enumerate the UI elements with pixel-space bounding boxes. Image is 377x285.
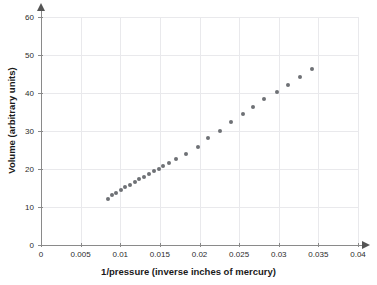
- y-tick-label: 50: [25, 51, 34, 60]
- gridline-horizontal: [41, 169, 358, 170]
- y-tick-mark: [38, 17, 43, 18]
- y-axis-arrow-icon: [37, 3, 45, 11]
- data-point: [167, 161, 171, 165]
- y-tick-label: 10: [25, 203, 34, 212]
- y-tick-label: 30: [25, 127, 34, 136]
- plot-area: [41, 17, 358, 245]
- gridline-horizontal: [41, 17, 358, 18]
- x-tick-label: 0.025: [229, 250, 249, 259]
- data-point: [119, 188, 123, 192]
- data-point: [218, 129, 222, 133]
- x-tick-label: 0.04: [350, 250, 366, 259]
- y-tick-mark: [38, 93, 43, 94]
- x-tick-mark: [239, 243, 240, 247]
- y-tick-label: 0: [30, 241, 34, 250]
- data-point: [298, 75, 302, 79]
- y-tick-mark: [38, 55, 43, 56]
- data-point: [196, 145, 200, 149]
- data-point: [133, 180, 137, 184]
- gridline-vertical: [358, 17, 359, 245]
- x-tick-mark: [358, 243, 359, 247]
- y-tick-mark: [38, 207, 43, 208]
- data-point: [147, 172, 151, 176]
- y-axis-line: [41, 10, 42, 246]
- x-tick-label: 0.035: [308, 250, 328, 259]
- data-point: [286, 83, 290, 87]
- x-axis-label: 1/pressure (inverse inches of mercury): [0, 266, 377, 277]
- x-tick-mark: [200, 243, 201, 247]
- gridline-horizontal: [41, 55, 358, 56]
- data-point: [142, 175, 146, 179]
- data-point: [241, 112, 245, 116]
- x-tick-mark: [81, 243, 82, 247]
- y-tick-label: 60: [25, 13, 34, 22]
- x-tick-label: 0.015: [150, 250, 170, 259]
- data-point: [275, 90, 279, 94]
- x-tick-label: 0: [39, 250, 43, 259]
- data-point: [174, 157, 178, 161]
- data-point: [157, 167, 161, 171]
- data-point: [106, 197, 110, 201]
- y-tick-label: 20: [25, 165, 34, 174]
- scatter-chart-figure: 00.0050.010.0150.020.0250.030.0350.04010…: [0, 0, 377, 285]
- y-axis-label: Volume (arbitrary units): [6, 41, 17, 201]
- x-tick-label: 0.005: [71, 250, 91, 259]
- gridline-horizontal: [41, 93, 358, 94]
- y-tick-mark: [38, 131, 43, 132]
- x-tick-mark: [120, 243, 121, 247]
- data-point: [152, 169, 156, 173]
- x-tick-mark: [318, 243, 319, 247]
- x-tick-label: 0.02: [192, 250, 208, 259]
- x-axis-arrow-icon: [362, 241, 370, 249]
- data-point: [114, 191, 118, 195]
- y-tick-label: 40: [25, 89, 34, 98]
- x-tick-mark: [279, 243, 280, 247]
- data-point: [128, 183, 132, 187]
- gridline-horizontal: [41, 131, 358, 132]
- x-tick-mark: [160, 243, 161, 247]
- y-tick-mark: [38, 245, 43, 246]
- x-tick-label: 0.03: [271, 250, 287, 259]
- gridline-horizontal: [41, 207, 358, 208]
- x-tick-label: 0.01: [112, 250, 128, 259]
- x-axis-line: [41, 245, 366, 246]
- y-tick-mark: [38, 169, 43, 170]
